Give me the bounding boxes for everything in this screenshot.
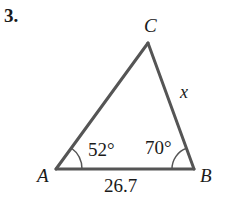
angle-label-b: 70° <box>145 138 172 157</box>
vertex-label-a: A <box>37 166 49 185</box>
side-label-bc: x <box>180 83 188 101</box>
vertex-label-c: C <box>144 16 157 35</box>
angle-arc-a <box>71 148 82 169</box>
side-label-ab: 26.7 <box>104 176 137 195</box>
problem-number: 3. <box>4 6 18 25</box>
angle-arc-b <box>172 148 187 169</box>
angle-label-a: 52° <box>88 140 115 159</box>
vertex-label-b: B <box>200 166 212 185</box>
